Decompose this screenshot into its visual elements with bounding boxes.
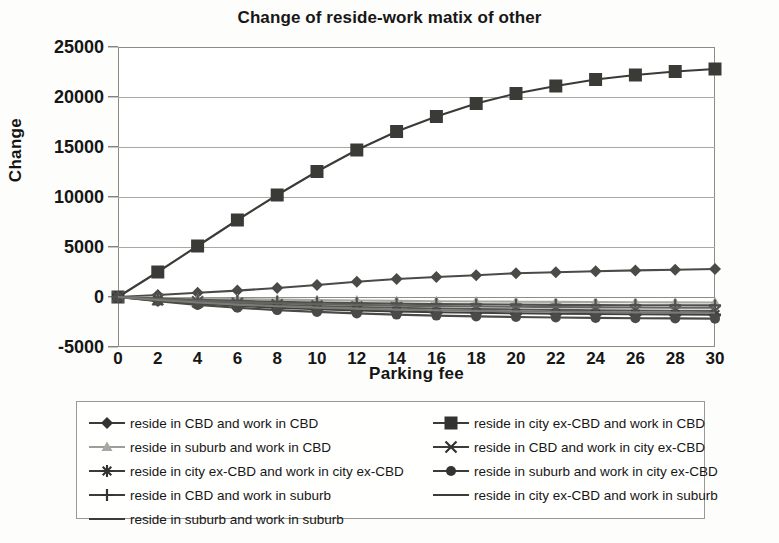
square-marker — [549, 80, 562, 93]
circle-marker — [511, 312, 521, 322]
x-tick-label: 26 — [615, 349, 655, 369]
legend-column-left: reside in CBD and work in CBDreside in s… — [87, 411, 417, 531]
legend-column-right: reside in city ex-CBD and work in CBDres… — [431, 411, 703, 507]
legend-marker-glyph — [98, 439, 116, 455]
x-tick-label: 20 — [496, 349, 536, 369]
legend-item[interactable]: reside in suburb and work in city ex-CBD — [431, 459, 703, 483]
x-tick-label: 8 — [257, 349, 297, 369]
diamond-marker — [351, 276, 363, 288]
diamond-marker — [271, 282, 283, 294]
diamond-marker — [391, 273, 403, 285]
triangle-marker — [102, 442, 113, 452]
y-tick-label: 25000 — [8, 37, 104, 58]
legend-marker-glyph — [98, 487, 116, 503]
legend-marker-glyph — [98, 463, 116, 479]
diamond-marker — [590, 265, 602, 277]
legend-item[interactable]: reside in CBD and work in CBD — [87, 411, 417, 435]
y-tick-label: 15000 — [8, 137, 104, 158]
legend-label: reside in suburb and work in city ex-CBD — [474, 464, 718, 479]
y-tick-mark — [108, 246, 118, 247]
circle-marker — [352, 308, 362, 318]
circle-marker — [591, 313, 601, 323]
x-tick-label: 30 — [695, 349, 735, 369]
chart-title: Change of reside-work matix of other — [0, 8, 779, 28]
series-1 — [112, 63, 722, 304]
x-tick-label: 14 — [377, 349, 417, 369]
circle-marker — [670, 313, 680, 323]
square-marker — [151, 266, 164, 279]
circle-marker — [471, 311, 481, 321]
chart-page: Change of reside-work matix of other Cha… — [0, 0, 779, 543]
diamond-marker — [470, 269, 482, 281]
diamond-marker — [101, 417, 113, 429]
x-tick-label: 6 — [217, 349, 257, 369]
x-tick-label: 4 — [178, 349, 218, 369]
plus-marker — [669, 299, 681, 311]
legend-marker-glyph — [442, 415, 460, 431]
legend-item[interactable]: reside in CBD and work in suburb — [87, 483, 417, 507]
triangle-marker — [87, 439, 127, 455]
square-marker — [470, 97, 483, 110]
legend-line — [433, 494, 469, 496]
circle-marker — [392, 310, 402, 320]
legend-label: reside in CBD and work in city ex-CBD — [474, 440, 705, 455]
legend-item[interactable]: reside in CBD and work in city ex-CBD — [431, 435, 703, 459]
square-marker — [390, 125, 403, 138]
diamond-marker — [550, 266, 562, 278]
x-tick-label: 16 — [416, 349, 456, 369]
circle-marker — [446, 466, 456, 476]
x-tick-label: 24 — [576, 349, 616, 369]
y-tick-label: 20000 — [8, 87, 104, 108]
square-marker — [271, 189, 284, 202]
square-marker — [510, 87, 523, 100]
square-marker — [709, 63, 722, 76]
x-tick-label: 10 — [297, 349, 337, 369]
circle-marker — [551, 313, 561, 323]
legend-label: reside in city ex-CBD and work in city e… — [130, 464, 404, 479]
x-tick-label: 22 — [536, 349, 576, 369]
plot-area — [118, 47, 715, 347]
square-marker — [191, 240, 204, 253]
y-tick-mark — [108, 146, 118, 147]
legend-marker-glyph — [98, 415, 116, 431]
legend: reside in CBD and work in CBDreside in s… — [76, 401, 705, 519]
square-marker — [430, 110, 443, 123]
x-tick-label: 28 — [655, 349, 695, 369]
x-tick-label: 0 — [98, 349, 138, 369]
x-tick-label: 18 — [456, 349, 496, 369]
square-marker — [629, 69, 642, 82]
square-marker — [589, 73, 602, 86]
diamond-marker — [87, 415, 127, 431]
legend-label: reside in suburb and work in CBD — [130, 440, 331, 455]
y-tick-mark — [108, 346, 118, 347]
circle-marker — [431, 463, 471, 479]
diamond-marker — [629, 264, 641, 276]
plus-marker — [87, 487, 127, 503]
diamond-marker — [510, 267, 522, 279]
legend-item[interactable]: reside in city ex-CBD and work in suburb — [431, 483, 703, 507]
y-tick-mark — [108, 196, 118, 197]
y-tick-label: 5000 — [8, 237, 104, 258]
square-marker — [445, 417, 458, 430]
legend-marker-glyph — [442, 463, 460, 479]
legend-marker-glyph — [442, 439, 460, 455]
diamond-marker — [430, 271, 442, 283]
legend-item[interactable]: reside in suburb and work in CBD — [87, 435, 417, 459]
diamond-marker — [311, 279, 323, 291]
legend-item[interactable]: reside in suburb and work in suburb — [87, 507, 417, 531]
legend-item[interactable]: reside in city ex-CBD and work in CBD — [431, 411, 703, 435]
series-line — [118, 269, 715, 297]
square-marker — [431, 415, 471, 431]
legend-line — [89, 518, 125, 520]
legend-item[interactable]: reside in city ex-CBD and work in city e… — [87, 459, 417, 483]
asterisk-marker — [87, 463, 127, 479]
y-tick-mark — [108, 96, 118, 97]
y-tick-label: 10000 — [8, 187, 104, 208]
x-tick-label: 2 — [138, 349, 178, 369]
x-marker — [431, 439, 471, 455]
x-marker — [446, 442, 457, 453]
series-layer — [118, 47, 715, 347]
legend-label: reside in CBD and work in CBD — [130, 416, 318, 431]
diamond-marker — [669, 264, 681, 276]
legend-label: reside in city ex-CBD and work in CBD — [474, 416, 705, 431]
